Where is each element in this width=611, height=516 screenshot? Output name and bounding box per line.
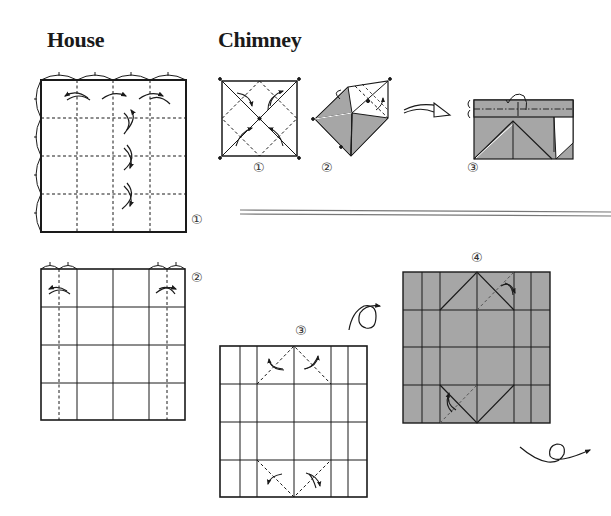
house-step-1-diagram [34, 72, 186, 232]
chimney-step-3-diagram [468, 94, 573, 159]
chimney-step-4-diagram [403, 272, 550, 423]
turn-over-icon [349, 306, 380, 330]
transition-arrow [404, 103, 450, 117]
house-step-2-diagram [41, 262, 185, 420]
chimney-step-2-diagram [312, 78, 392, 156]
separator-double-line [240, 210, 611, 216]
chimney-step-1-diagram [219, 78, 301, 160]
diagram-canvas [0, 0, 611, 516]
chimney-step-3b-diagram [220, 346, 367, 497]
turn-over-icon-bottom [520, 444, 590, 462]
